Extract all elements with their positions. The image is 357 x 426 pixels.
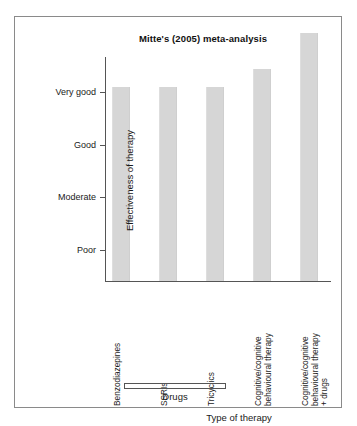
x-axis-title: Type of therapy [119,412,357,423]
x-label-text: Benzodiazepines [113,286,123,406]
y-tick-label: Poor [77,245,96,255]
y-tick-label: Moderate [58,192,96,202]
y-axis-title: Effectiveness of therapy [124,111,135,251]
figure-frame: Mitte's (2005) meta-analysis Very good G… [14,16,342,408]
bar-tricyclics[interactable]: Tricyclics [206,87,224,281]
chart-title-text: Mitte's (2005) meta-analysis [139,33,267,44]
y-tick-mark [100,92,106,93]
y-tick-mark [100,145,106,146]
y-tick-label: Good [74,140,96,150]
bar-ssris[interactable]: SSRIs [159,87,177,281]
bar-cognitive-behavioural-therapy[interactable]: Cognitive/cognitive behavioural therapy [253,69,271,281]
drugs-group-bracket-top [124,383,226,384]
bar-cognitive-behavioural-therapy-plus-drugs[interactable]: Cognitive/cognitive behavioural therapy … [300,33,318,281]
y-tick-mark [100,197,106,198]
y-tick-label: Very good [55,87,96,97]
y-tick-mark [100,250,106,251]
x-label-text: Cognitive/cognitive behavioural therapy … [301,286,330,406]
plot-area: Very good Good Moderate Poor Benzodiazep… [105,57,331,282]
x-label-text: Cognitive/cognitive behavioural therapy [254,286,273,406]
drugs-group-label: Drugs [124,391,226,402]
chart-title: Mitte's (2005) meta-analysis [15,33,343,44]
x-axis-line [105,281,331,282]
y-axis-line [105,57,106,282]
